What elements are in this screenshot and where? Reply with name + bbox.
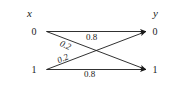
output-axis-title: y <box>153 8 158 19</box>
input-node-0: 0 <box>29 27 39 37</box>
binary-symmetric-channel-figure: x y 0 1 0 1 0.8 0.2 0.2 0.8 <box>0 0 180 89</box>
output-node-0: 0 <box>150 27 160 37</box>
output-node-1: 1 <box>150 65 160 75</box>
input-axis-title: x <box>27 8 32 19</box>
edge-label-0-to-0: 0.8 <box>86 33 97 42</box>
input-node-1: 1 <box>29 65 39 75</box>
edge-label-1-to-1: 0.8 <box>84 70 95 79</box>
